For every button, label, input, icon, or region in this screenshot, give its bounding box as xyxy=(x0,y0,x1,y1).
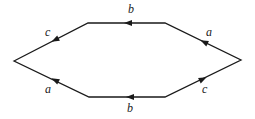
arrow-top-left-c xyxy=(50,36,60,45)
arrow-bottom-left-a xyxy=(50,76,60,85)
label-bottom-b: b xyxy=(127,101,133,115)
label-top-left-c: c xyxy=(45,25,51,39)
label-top-right-a: a xyxy=(206,25,212,39)
arrow-top-b xyxy=(124,20,132,26)
label-bottom-left-a: a xyxy=(45,82,51,96)
hexagon-diagram: b a c a b c xyxy=(0,0,255,119)
label-top-b: b xyxy=(128,2,134,16)
arrow-bottom-b xyxy=(126,94,134,100)
label-bottom-right-c: c xyxy=(202,82,208,96)
